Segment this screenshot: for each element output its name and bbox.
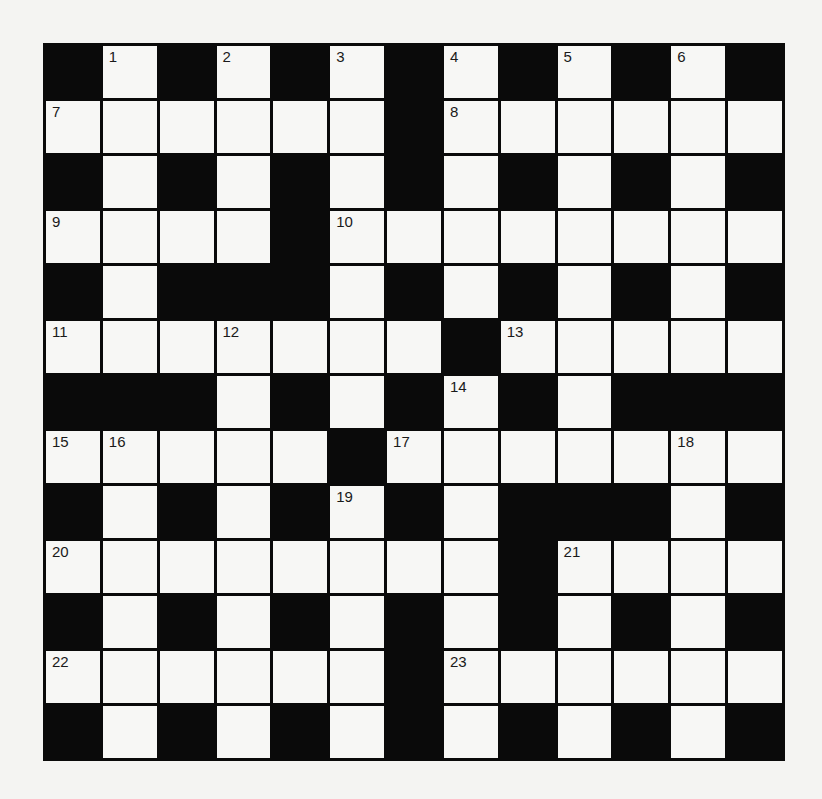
answer-cell[interactable]: 9: [46, 211, 100, 263]
answer-cell[interactable]: 11: [46, 321, 100, 373]
answer-cell[interactable]: [217, 651, 271, 703]
answer-cell[interactable]: [217, 486, 271, 538]
answer-cell[interactable]: [671, 156, 725, 208]
answer-cell[interactable]: [330, 541, 384, 593]
answer-cell[interactable]: [330, 101, 384, 153]
answer-cell[interactable]: 3: [330, 46, 384, 98]
answer-cell[interactable]: [671, 321, 725, 373]
answer-cell[interactable]: 5: [558, 46, 612, 98]
answer-cell[interactable]: [444, 541, 498, 593]
answer-cell[interactable]: 8: [444, 101, 498, 153]
answer-cell[interactable]: 17: [387, 431, 441, 483]
answer-cell[interactable]: [217, 211, 271, 263]
answer-cell[interactable]: 18: [671, 431, 725, 483]
answer-cell[interactable]: 6: [671, 46, 725, 98]
answer-cell[interactable]: [558, 431, 612, 483]
answer-cell[interactable]: [103, 266, 157, 318]
answer-cell[interactable]: [217, 596, 271, 648]
answer-cell[interactable]: [330, 321, 384, 373]
answer-cell[interactable]: [614, 541, 668, 593]
answer-cell[interactable]: [160, 431, 214, 483]
answer-cell[interactable]: [160, 651, 214, 703]
answer-cell[interactable]: [103, 706, 157, 758]
answer-cell[interactable]: [671, 101, 725, 153]
answer-cell[interactable]: [558, 651, 612, 703]
answer-cell[interactable]: [103, 486, 157, 538]
answer-cell[interactable]: [330, 266, 384, 318]
answer-cell[interactable]: [103, 321, 157, 373]
answer-cell[interactable]: [103, 211, 157, 263]
answer-cell[interactable]: [614, 321, 668, 373]
answer-cell[interactable]: [671, 706, 725, 758]
answer-cell[interactable]: [501, 101, 555, 153]
answer-cell[interactable]: [558, 706, 612, 758]
answer-cell[interactable]: [728, 101, 782, 153]
answer-cell[interactable]: [671, 541, 725, 593]
answer-cell[interactable]: [160, 541, 214, 593]
answer-cell[interactable]: [444, 486, 498, 538]
answer-cell[interactable]: [330, 376, 384, 428]
answer-cell[interactable]: [444, 211, 498, 263]
answer-cell[interactable]: [103, 541, 157, 593]
answer-cell[interactable]: [444, 266, 498, 318]
answer-cell[interactable]: [160, 321, 214, 373]
answer-cell[interactable]: 10: [330, 211, 384, 263]
answer-cell[interactable]: [273, 101, 327, 153]
answer-cell[interactable]: [103, 651, 157, 703]
answer-cell[interactable]: [387, 541, 441, 593]
answer-cell[interactable]: [728, 211, 782, 263]
answer-cell[interactable]: [217, 101, 271, 153]
answer-cell[interactable]: [728, 541, 782, 593]
answer-cell[interactable]: [103, 596, 157, 648]
answer-cell[interactable]: [614, 431, 668, 483]
answer-cell[interactable]: [330, 596, 384, 648]
answer-cell[interactable]: [330, 706, 384, 758]
answer-cell[interactable]: [217, 431, 271, 483]
answer-cell[interactable]: [387, 321, 441, 373]
answer-cell[interactable]: 15: [46, 431, 100, 483]
answer-cell[interactable]: [160, 101, 214, 153]
answer-cell[interactable]: [160, 211, 214, 263]
answer-cell[interactable]: [614, 651, 668, 703]
answer-cell[interactable]: [558, 376, 612, 428]
answer-cell[interactable]: [671, 486, 725, 538]
answer-cell[interactable]: [558, 596, 612, 648]
answer-cell[interactable]: 22: [46, 651, 100, 703]
answer-cell[interactable]: [728, 431, 782, 483]
answer-cell[interactable]: [273, 541, 327, 593]
answer-cell[interactable]: [217, 541, 271, 593]
answer-cell[interactable]: [273, 651, 327, 703]
answer-cell[interactable]: [444, 706, 498, 758]
answer-cell[interactable]: 14: [444, 376, 498, 428]
answer-cell[interactable]: [217, 706, 271, 758]
answer-cell[interactable]: [558, 266, 612, 318]
answer-cell[interactable]: [558, 321, 612, 373]
answer-cell[interactable]: [671, 266, 725, 318]
answer-cell[interactable]: [558, 211, 612, 263]
answer-cell[interactable]: [501, 211, 555, 263]
answer-cell[interactable]: [103, 101, 157, 153]
answer-cell[interactable]: [614, 211, 668, 263]
answer-cell[interactable]: 4: [444, 46, 498, 98]
answer-cell[interactable]: 2: [217, 46, 271, 98]
answer-cell[interactable]: [614, 101, 668, 153]
answer-cell[interactable]: 13: [501, 321, 555, 373]
answer-cell[interactable]: [671, 651, 725, 703]
answer-cell[interactable]: [501, 431, 555, 483]
answer-cell[interactable]: 1: [103, 46, 157, 98]
answer-cell[interactable]: [728, 321, 782, 373]
answer-cell[interactable]: [558, 101, 612, 153]
answer-cell[interactable]: 21: [558, 541, 612, 593]
answer-cell[interactable]: [330, 651, 384, 703]
answer-cell[interactable]: 7: [46, 101, 100, 153]
answer-cell[interactable]: [273, 321, 327, 373]
answer-cell[interactable]: [444, 156, 498, 208]
answer-cell[interactable]: 19: [330, 486, 384, 538]
answer-cell[interactable]: [217, 376, 271, 428]
answer-cell[interactable]: [330, 156, 384, 208]
answer-cell[interactable]: [444, 431, 498, 483]
answer-cell[interactable]: [728, 651, 782, 703]
answer-cell[interactable]: [558, 156, 612, 208]
answer-cell[interactable]: [273, 431, 327, 483]
answer-cell[interactable]: [387, 211, 441, 263]
